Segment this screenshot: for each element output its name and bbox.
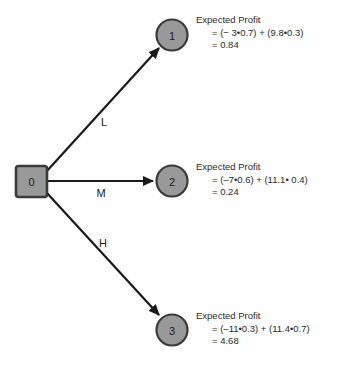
decision-tree-diagram: L M H 0 1 2 3 Expected Profit = (− 3•0.7… (0, 0, 345, 366)
expected-profit-block-3: Expected Profit = (–11•0.3) + (11.4•0.7)… (196, 310, 310, 348)
node-leaf-3-label: 3 (169, 325, 175, 337)
expected-profit-title-3: Expected Profit (196, 310, 310, 323)
expected-profit-title-2: Expected Profit (196, 161, 308, 174)
expected-profit-block-2: Expected Profit = (–7•0.6) + (11.1• 0.4)… (196, 161, 308, 199)
node-root-label: 0 (28, 176, 34, 188)
node-leaf-1-label: 1 (169, 30, 175, 42)
edge-label-low: L (101, 116, 107, 128)
expected-profit-result-1: = 0.84 (196, 39, 303, 52)
expected-profit-expression-3: = (–11•0.3) + (11.4•0.7) (196, 323, 310, 336)
edge-low (46, 48, 159, 172)
expected-profit-block-1: Expected Profit = (− 3•0.7) + (9.8•0.3) … (196, 14, 303, 52)
expected-profit-expression-1: = (− 3•0.7) + (9.8•0.3) (196, 27, 303, 40)
expected-profit-result-2: = 0.24 (196, 186, 308, 199)
edge-label-medium: M (96, 187, 105, 199)
expected-profit-expression-2: = (–7•0.6) + (11.1• 0.4) (196, 174, 308, 187)
node-leaf-2-label: 2 (169, 176, 175, 188)
expected-profit-result-3: = 4.68 (196, 335, 310, 348)
expected-profit-title-1: Expected Profit (196, 14, 303, 27)
edge-high (46, 192, 159, 315)
edge-label-high: H (99, 237, 107, 249)
